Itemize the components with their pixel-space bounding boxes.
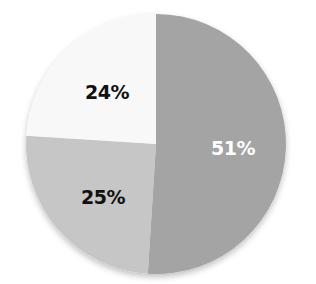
pie-slice-2 — [26, 14, 156, 144]
slice-label-0: 51% — [211, 137, 255, 159]
slice-label-1: 25% — [81, 186, 125, 208]
pie-chart: 51%25%24% — [0, 0, 316, 284]
slice-label-2: 24% — [85, 81, 129, 103]
pie-chart-svg: 51%25%24% — [0, 0, 316, 284]
